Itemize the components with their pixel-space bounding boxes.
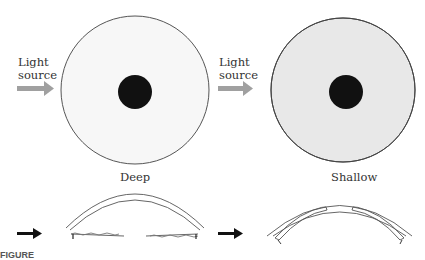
shallow-pupil <box>329 75 363 109</box>
deep-cross-section <box>66 194 204 239</box>
shallow-cross-section <box>267 206 412 245</box>
figure-caption-truncated: FIGURE <box>0 250 34 260</box>
deep-caption: Deep <box>120 171 150 184</box>
deep-black-arrow-icon <box>17 228 42 239</box>
shallow-caption: Shallow <box>331 171 377 184</box>
deep-iris <box>61 16 209 164</box>
light-label-line2: source <box>219 69 258 82</box>
deep-light-source-label: Light source <box>18 56 57 82</box>
light-label-line2: source <box>18 69 57 82</box>
deep-pupil <box>118 75 152 109</box>
shallow-black-arrow-icon <box>218 228 243 239</box>
shallow-iris <box>271 18 415 162</box>
shallow-light-source-label: Light source <box>219 56 258 82</box>
deep-light-arrow-icon <box>17 81 54 96</box>
shallow-light-arrow-icon <box>218 81 253 96</box>
